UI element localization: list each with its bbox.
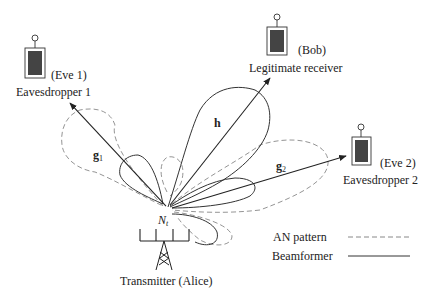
bob-name-label: (Bob) — [298, 44, 326, 56]
g2-sub: 2 — [282, 165, 286, 174]
an-lobe-small-lower — [174, 212, 232, 245]
an-pattern-lobes — [62, 109, 328, 245]
transmitter-tower-icon — [156, 241, 172, 270]
transmitter-text: Transmitter — [120, 274, 176, 288]
eve1-label: Eavesdropper 1 — [16, 86, 91, 98]
beamformer-lobes — [120, 87, 270, 244]
legend-an-pattern-label: AN pattern — [273, 231, 327, 243]
eve2-name-label: (Eve 2) — [380, 157, 416, 169]
bob-label: Legitimate receiver — [249, 62, 343, 74]
an-lobe-eve1 — [62, 109, 163, 206]
eve2-device-icon — [352, 124, 371, 165]
bob-device-icon — [267, 14, 287, 55]
g1-sub: 1 — [99, 154, 103, 163]
diagram-canvas — [0, 0, 436, 301]
legend-beamformer-label: Beamformer — [272, 250, 333, 262]
eve1-device-icon — [25, 35, 45, 78]
transmitter-label: Transmitter (Alice) — [120, 275, 213, 287]
beam-lobe-bob — [168, 87, 270, 207]
antenna-array-icon — [140, 229, 189, 241]
legend-lines — [348, 237, 410, 256]
beam-lobe-mid — [170, 178, 255, 208]
eve1-name-label: (Eve 1) — [51, 69, 87, 81]
arrow-g1 — [70, 103, 166, 206]
alice-text: (Alice) — [179, 274, 213, 288]
antenna-count-label: Nt — [158, 214, 168, 226]
channel-g2-label: g2 — [276, 160, 286, 172]
eve2-label: Eavesdropper 2 — [343, 174, 418, 186]
nt-sub: t — [166, 219, 168, 228]
nt-base: N — [158, 213, 166, 227]
arrow-g2 — [172, 156, 346, 208]
channel-h-label: h — [214, 117, 221, 129]
an-lobe-small-upper — [161, 157, 183, 196]
channel-g1-label: g1 — [93, 149, 103, 161]
